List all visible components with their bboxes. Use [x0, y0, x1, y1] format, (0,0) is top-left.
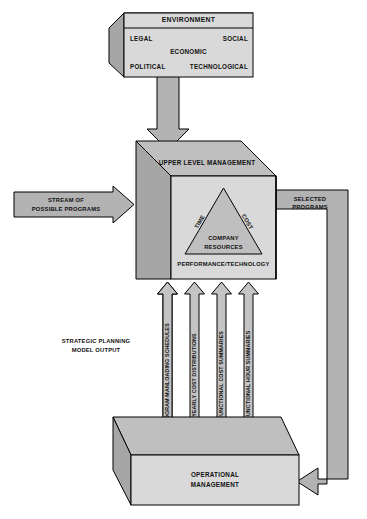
- stream-label-line2: POSSIBLE PROGRAMS: [32, 206, 100, 212]
- output-stream-label-3: FUNCTIONAL COST SUMMARIES: [218, 331, 224, 419]
- output-stream-label-2: YEARLY COST DISTRIBUTIONS: [191, 333, 197, 417]
- upper-box-title: UPPER LEVEL MANAGEMENT: [159, 159, 256, 166]
- environment-factor-technological: TECHNOLOGICAL: [190, 63, 248, 70]
- stream-label-line1: STREAM OF: [48, 197, 84, 203]
- output-stream-label-1: PROGRAM MANLOADING SCHEDULES: [164, 323, 170, 427]
- operational-management-box: OPERATIONAL MANAGEMENT: [113, 417, 299, 505]
- model-output-line1: STRATEGIC PLANNING: [62, 338, 131, 344]
- stream-of-possible-programs-arrow: STREAM OF POSSIBLE PROGRAMS: [14, 186, 134, 223]
- environment-title: ENVIRONMENT: [162, 16, 216, 23]
- environment-to-management-arrow: [147, 70, 189, 150]
- operational-box-top-face: [113, 417, 299, 455]
- triangle-center-line1: COMPANY: [208, 235, 239, 241]
- environment-factor-legal: LEGAL: [130, 35, 153, 42]
- environment-factor-economic: ECONOMIC: [170, 48, 207, 55]
- model-output-line2: MODEL OUTPUT: [72, 347, 121, 353]
- environment-box-side-face: [109, 13, 124, 77]
- strategic-planning-diagram: ENVIRONMENT LEGAL SOCIAL ECONOMIC POLITI…: [0, 0, 367, 519]
- diagram-canvas: ENVIRONMENT LEGAL SOCIAL ECONOMIC POLITI…: [0, 0, 367, 519]
- strategic-planning-model-output-caption: STRATEGIC PLANNING MODEL OUTPUT: [62, 338, 131, 353]
- environment-factor-political: POLITICAL: [130, 63, 165, 70]
- triangle-base-performance-technology: PERFORMANCE/TECHNOLOGY: [177, 261, 269, 267]
- upper-level-management-box: UPPER LEVEL MANAGEMENT COMPANY RESOURCES…: [136, 141, 276, 279]
- selected-programs-label-line1: SELECTED: [294, 196, 327, 202]
- environment-box: ENVIRONMENT LEGAL SOCIAL ECONOMIC POLITI…: [109, 13, 253, 77]
- output-stream-label-4: FUNCTIONAL HOUR SUMMARIES: [245, 330, 251, 419]
- triangle-center-line2: RESOURCES: [204, 244, 243, 250]
- operational-box-line1: OPERATIONAL: [191, 471, 239, 478]
- operational-box-line2: MANAGEMENT: [191, 481, 239, 488]
- environment-factor-social: SOCIAL: [223, 35, 248, 42]
- selected-programs-label-line2: PROGRAMS: [292, 204, 328, 210]
